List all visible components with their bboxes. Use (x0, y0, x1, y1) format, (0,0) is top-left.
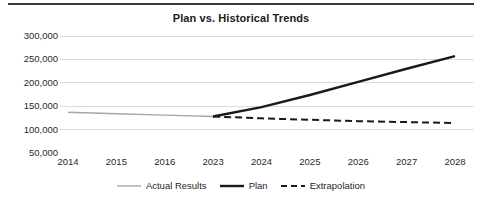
y-axis-tick-label: 150,000 (4, 101, 58, 111)
x-axis-tick-label: 2016 (143, 156, 187, 168)
series-line-actual-results (68, 112, 213, 116)
x-axis-tick-label: 2014 (46, 156, 90, 168)
series-line-plan (213, 56, 455, 116)
chart-figure: Plan vs. Historical Trends 50,000100,000… (0, 0, 482, 204)
y-axis-tick-labels: 50,000100,000150,000200,000250,000300,00… (0, 0, 58, 204)
plot-canvas (60, 36, 474, 153)
y-gridlines (60, 36, 474, 153)
y-axis-tick-label: 100,000 (4, 125, 58, 135)
plot-area (60, 36, 474, 153)
legend-label: Actual Results (146, 180, 207, 191)
series-line-extrapolation (213, 117, 455, 124)
y-axis-tick-label: 300,000 (4, 31, 58, 41)
y-axis-tick-label: 200,000 (4, 78, 58, 88)
x-axis-tick-label: 2025 (288, 156, 332, 168)
top-divider-rule (8, 3, 474, 5)
legend-item-actual-results[interactable]: Actual Results (117, 180, 207, 191)
legend-line-swatch-icon (281, 182, 305, 190)
legend-label: Extrapolation (310, 180, 365, 191)
chart-legend: Actual ResultsPlanExtrapolation (0, 180, 482, 191)
series-lines (68, 56, 455, 123)
x-axis-tick-label: 2026 (336, 156, 380, 168)
x-axis-tick-label: 2015 (94, 156, 138, 168)
legend-line-swatch-icon (220, 182, 244, 190)
x-axis-tick-label: 2023 (191, 156, 235, 168)
legend-line-swatch-icon (117, 182, 141, 190)
chart-title: Plan vs. Historical Trends (0, 12, 482, 24)
legend-label: Plan (249, 180, 268, 191)
x-axis-tick-label: 2027 (385, 156, 429, 168)
y-axis-tick-label: 250,000 (4, 54, 58, 64)
legend-item-plan[interactable]: Plan (220, 180, 268, 191)
legend-item-extrapolation[interactable]: Extrapolation (281, 180, 365, 191)
x-axis-tick-label: 2024 (240, 156, 284, 168)
x-axis-tick-label: 2028 (433, 156, 477, 168)
x-axis-tick-labels: 201420152016202320242025202620272028 (60, 156, 474, 170)
